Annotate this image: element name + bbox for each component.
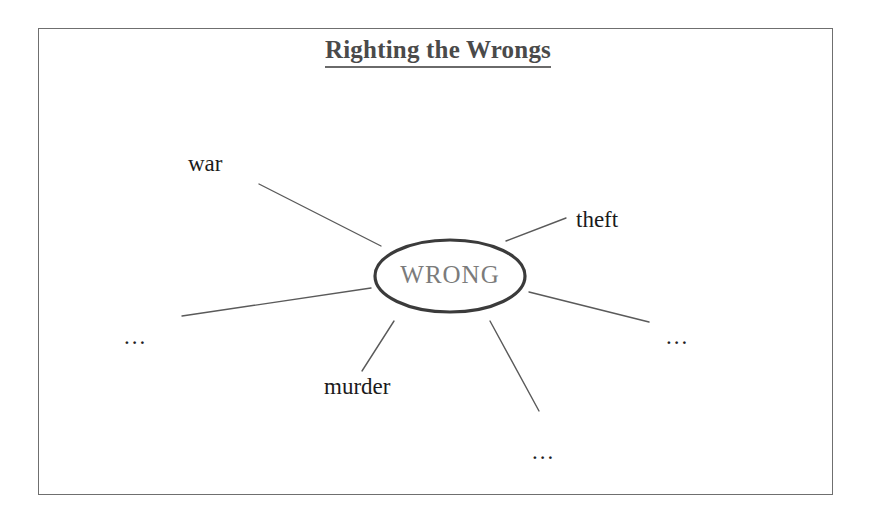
diagram-page: Righting the Wrongs WRONG war theft murd… [0,0,876,520]
node-label-war: war [188,152,222,175]
node-label-ellipsis-left: ... [124,325,147,348]
spoke-line-dots-right [529,292,649,322]
node-label-ellipsis-right: ... [666,325,689,348]
node-label-theft: theft [576,208,618,231]
spoke-line-theft [506,218,566,241]
spoke-line-war [259,184,381,246]
center-node-label: WRONG [375,262,525,287]
spoke-line-murder [362,321,394,371]
diagram-canvas [0,0,876,520]
spoke-line-dots-left [182,288,371,316]
node-label-ellipsis-bottom: ... [532,440,555,463]
node-label-murder: murder [324,375,390,398]
spoke-line-dots-bottom [490,321,539,411]
